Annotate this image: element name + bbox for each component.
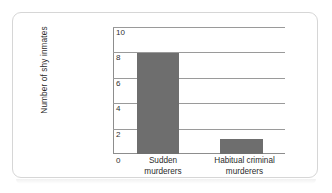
x-label-line-1: Sudden [118, 156, 208, 167]
x-label-line-2: murderers [196, 167, 293, 178]
bar-series [113, 27, 285, 154]
y-axis-title: Number of shy inmates [39, 11, 49, 129]
x-label-habitual-criminal-murderers: Habitual criminal murderers [196, 156, 293, 177]
chart-card: Number of shy inmates 10 8 6 4 2 [12, 12, 318, 178]
x-axis-labels: Sudden murderers Habitual criminal murde… [113, 156, 293, 180]
plot-area: 10 8 6 4 2 0 [113, 27, 285, 154]
bar-chart: Number of shy inmates 10 8 6 4 2 [13, 13, 319, 179]
chart-page: Number of shy inmates 10 8 6 4 2 [0, 0, 332, 193]
bar-habitual-criminal-murderers[interactable] [220, 139, 263, 154]
x-label-line-2: murderers [118, 167, 208, 178]
x-label-sudden-murderers: Sudden murderers [118, 156, 208, 177]
x-label-line-1: Habitual criminal [196, 156, 293, 167]
bar-sudden-murderers[interactable] [137, 53, 179, 154]
